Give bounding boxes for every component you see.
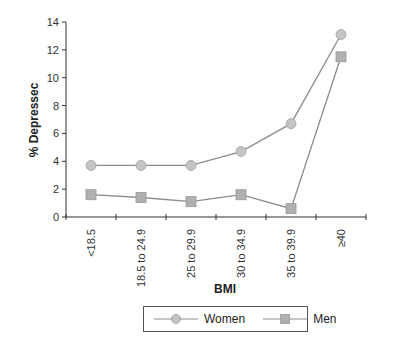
data-point-circle [286,119,296,129]
x-tick-label: ≥40 [335,229,347,247]
line-chart: 02468101214 <18.518.5 to 24.925 to 29.93… [0,0,412,354]
y-tick-label: 0 [53,211,59,223]
data-point-square [86,190,96,200]
y-axis: 02468101214 [47,16,66,223]
x-tick-label: 30 to 34.9 [235,229,247,278]
data-point-square [186,197,196,207]
y-tick-label: 2 [53,183,59,195]
legend-item-men: Men [263,312,336,326]
x-tick-label: 25 to 29.9 [185,229,197,278]
y-tick-label: 8 [53,100,59,112]
series-line-women [91,35,341,166]
legend-item-women: Women [154,312,245,326]
data-point-circle [186,160,196,170]
y-axis-label: % Depressec [27,82,41,157]
y-tick-label: 10 [47,72,59,84]
legend: Women Men [143,306,308,332]
x-tick-label: 35 to 39.9 [285,229,297,278]
square-marker-icon [263,313,307,325]
x-tick-label: <18.5 [85,229,97,257]
y-tick-label: 14 [47,16,59,28]
legend-label: Women [204,312,245,326]
series-line-men [91,57,341,209]
y-tick-label: 12 [47,44,59,56]
data-point-circle [86,160,96,170]
data-point-square [336,52,346,62]
y-tick-label: 4 [53,155,59,167]
data-point-circle [336,30,346,40]
data-point-square [236,190,246,200]
y-tick-label: 6 [53,127,59,139]
data-point-square [136,193,146,203]
data-point-circle [236,147,246,157]
legend-label: Men [313,312,336,326]
x-axis-label: BMI [214,282,236,296]
x-axis: <18.518.5 to 24.925 to 29.930 to 34.935 … [66,214,366,287]
data-point-square [286,204,296,214]
x-tick-label: 18.5 to 24.9 [135,229,147,287]
series-group [86,30,346,214]
circle-marker-icon [154,313,198,325]
data-point-circle [136,160,146,170]
